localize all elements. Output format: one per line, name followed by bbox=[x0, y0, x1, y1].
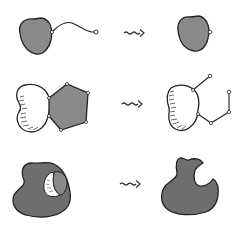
row-2-arrow bbox=[122, 101, 142, 108]
squiggly-arrow-icon bbox=[120, 183, 136, 185]
tail-end-node bbox=[94, 30, 98, 34]
row-3-after bbox=[162, 158, 219, 215]
retracted-tail-node bbox=[208, 30, 212, 34]
conformational-change-diagram bbox=[0, 0, 245, 228]
row-3-before bbox=[13, 163, 70, 217]
row-1-arrow bbox=[124, 30, 144, 37]
lobed-domain bbox=[17, 84, 51, 132]
row-3-arrow bbox=[120, 181, 140, 188]
squiggly-arrow-icon bbox=[122, 103, 138, 105]
large-domain-empty-pocket bbox=[162, 158, 219, 215]
attachment-node bbox=[50, 30, 53, 33]
globular-domain-compact bbox=[178, 16, 209, 51]
flexible-tail bbox=[53, 22, 95, 32]
row-1-after bbox=[178, 16, 212, 51]
squiggly-arrow-icon bbox=[124, 32, 140, 34]
row-2-after bbox=[167, 74, 230, 130]
globular-domain bbox=[20, 18, 52, 54]
pentagon-domain bbox=[49, 84, 88, 130]
row-1-before bbox=[20, 18, 98, 54]
row-2-before bbox=[17, 83, 90, 132]
bound-ligand bbox=[44, 172, 67, 197]
